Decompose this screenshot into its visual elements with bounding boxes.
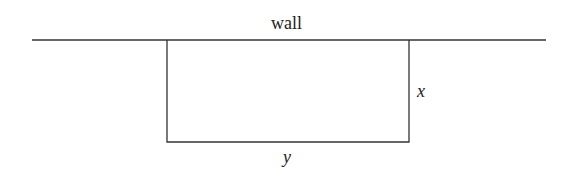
wall-label: wall	[271, 14, 302, 32]
fenced-area-diagram: wall x y	[0, 0, 576, 179]
side-x-label: x	[417, 82, 425, 100]
side-y-label: y	[283, 148, 291, 166]
fence-rectangle	[167, 40, 409, 142]
